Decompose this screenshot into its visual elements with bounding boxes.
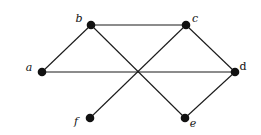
node-label-d: d — [239, 60, 246, 73]
edge-d-e — [185, 72, 235, 118]
node-label-f: f — [73, 115, 80, 128]
node-b — [87, 21, 96, 30]
edges-layer — [42, 25, 235, 118]
node-d — [231, 68, 240, 77]
node-c — [182, 21, 191, 30]
node-label-c: c — [192, 12, 198, 25]
node-label-e: e — [190, 117, 197, 130]
edge-a-b — [42, 25, 91, 72]
node-e — [181, 114, 190, 123]
edge-c-d — [186, 25, 235, 72]
node-f — [86, 114, 95, 123]
labels-layer: abcdef — [26, 12, 247, 130]
node-label-b: b — [75, 12, 82, 25]
node-label-a: a — [26, 61, 33, 74]
node-a — [38, 68, 47, 77]
graph-diagram: abcdef — [0, 0, 261, 135]
